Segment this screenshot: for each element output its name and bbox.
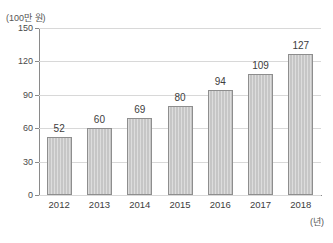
plot-area: 5260698094109127 — [39, 28, 321, 195]
bar — [47, 137, 72, 195]
x-axis-tick-label: 2017 — [241, 200, 281, 210]
x-axis-tick-label: 2016 — [200, 200, 240, 210]
y-axis-tick-mark — [35, 128, 39, 129]
x-axis-unit-label: (년) — [310, 215, 324, 228]
x-axis-tick-label: 2015 — [160, 200, 200, 210]
x-axis-tick-label: 2018 — [281, 200, 321, 210]
y-axis-tick-mark — [35, 95, 39, 96]
gridline — [39, 28, 321, 29]
x-axis-tick-label: 2012 — [39, 200, 79, 210]
bar — [168, 106, 193, 195]
bar-value-label: 80 — [163, 93, 197, 103]
x-axis-tick-label: 2014 — [120, 200, 160, 210]
x-axis-tick-label: 2013 — [79, 200, 119, 210]
bar-value-label: 60 — [82, 115, 116, 125]
y-axis-tick-label: 90 — [23, 90, 33, 99]
y-axis-tick-label: 150 — [18, 24, 33, 33]
bar — [248, 74, 273, 195]
y-axis-tick-mark — [35, 195, 39, 196]
bar-chart: (100만 원) (년) 0306090120150 5260698094109… — [0, 0, 333, 243]
y-axis-tick-mark — [35, 61, 39, 62]
y-axis-tick-label: 30 — [23, 157, 33, 166]
bar — [208, 90, 233, 195]
y-axis-tick-mark — [35, 162, 39, 163]
bar-value-label: 52 — [42, 124, 76, 134]
gridline — [39, 195, 321, 196]
y-axis-tick-labels: 0306090120150 — [8, 28, 33, 195]
y-axis-tick-label: 60 — [23, 124, 33, 133]
bar-value-label: 94 — [203, 77, 237, 87]
y-axis-tick-label: 0 — [28, 191, 33, 200]
bar-value-label: 69 — [123, 105, 157, 115]
y-axis-tick-mark — [35, 28, 39, 29]
bar — [127, 118, 152, 195]
gridline — [39, 61, 321, 62]
bar — [87, 128, 112, 195]
bar-value-label: 109 — [244, 61, 278, 71]
bar — [288, 54, 313, 195]
y-axis-tick-label: 120 — [18, 57, 33, 66]
bar-value-label: 127 — [284, 41, 318, 51]
